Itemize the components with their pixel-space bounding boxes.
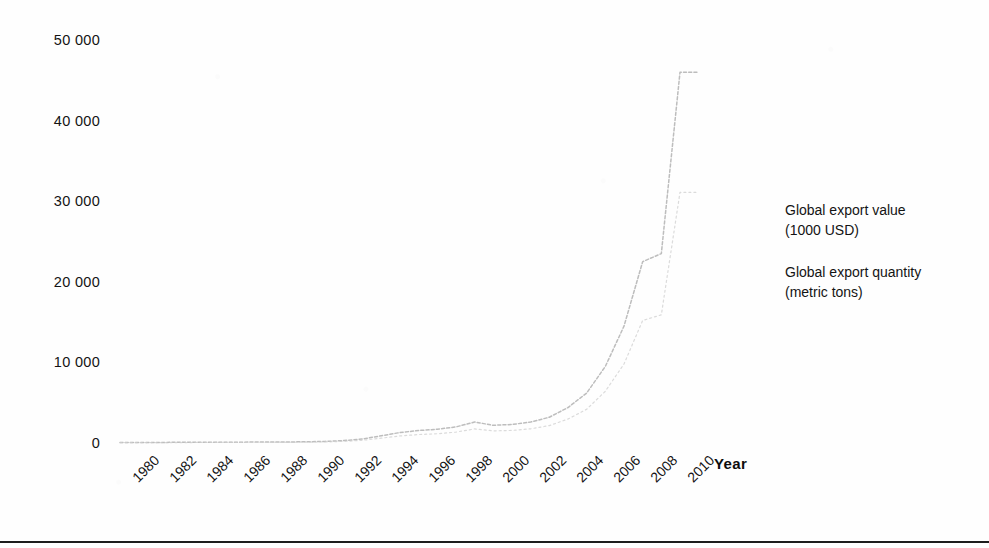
series-layer (120, 72, 699, 442)
legend-label-line1: Global export value (785, 202, 906, 218)
chart-figure: 50 000 40 000 30 000 20 000 10 000 0 198… (0, 0, 989, 548)
legend-entry-export-value: Global export value (1000 USD) (785, 200, 906, 240)
series-line (120, 72, 699, 442)
legend-label-line2: (metric tons) (785, 282, 921, 302)
legend-entry-export-quantity: Global export quantity (metric tons) (785, 262, 921, 302)
x-axis-title: Year (714, 455, 747, 472)
page-bottom-rule (0, 541, 989, 543)
legend-label-line1: Global export quantity (785, 264, 921, 280)
series-line (120, 192, 699, 442)
legend-label-line2: (1000 USD) (785, 220, 906, 240)
